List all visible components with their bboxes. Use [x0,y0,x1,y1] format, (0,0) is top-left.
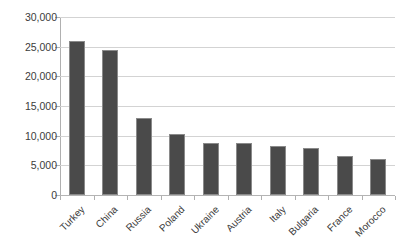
x-axis-tick [228,196,229,200]
plot-area [60,17,395,195]
bar [136,118,152,195]
x-axis-tick-label: Poland [158,204,187,233]
y-axis-tick-label: 30,000 [25,12,57,23]
y-axis-tick-label: 0 [51,190,57,201]
x-axis-tick [395,196,396,200]
x-axis-tick-label: Turkey [58,204,86,232]
x-axis-tick [194,196,195,200]
y-axis-tick-label: 20,000 [25,71,57,82]
x-axis-tick [295,196,296,200]
x-axis-tick [261,196,262,200]
x-axis-tick [60,196,61,200]
y-axis-tick-label: 5,000 [31,160,57,171]
x-axis-tick-label: China [94,204,120,230]
bar [203,143,219,195]
x-axis-tick-label: France [325,204,354,233]
y-axis-tick-label: 15,000 [25,101,57,112]
bar [169,134,185,195]
x-axis-tick [161,196,162,200]
x-axis-tick [127,196,128,200]
x-axis-tick [328,196,329,200]
x-axis-tick-label: Ukraine [189,204,220,235]
x-axis-tick-label: Bulgaria [287,204,320,237]
y-axis-tick-label: 10,000 [25,131,57,142]
bar [337,156,353,195]
x-axis-tick [362,196,363,200]
y-axis-tick-label: 25,000 [25,42,57,53]
bar [370,159,386,195]
bar-chart: 05,00010,00015,00020,00025,00030,000 Tur… [0,0,408,249]
x-axis-tick-label: Morocco [354,204,388,238]
bar [69,41,85,195]
bar [236,143,252,195]
x-axis-tick-label: Russia [124,204,153,233]
x-axis-tick-label: Austria [225,204,254,233]
x-axis-tick-label: Italy [268,204,288,224]
bar [102,50,118,195]
bar [270,146,286,195]
x-axis-tick [94,196,95,200]
bar [303,148,319,195]
